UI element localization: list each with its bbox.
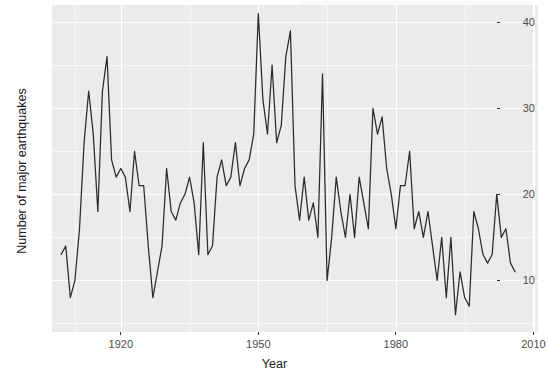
x-tick-label: 1950 <box>246 338 270 350</box>
series-polyline <box>61 14 515 315</box>
x-tick-label: 1920 <box>109 338 133 350</box>
x-tick-mark <box>258 332 259 335</box>
x-tick-mark <box>120 332 121 335</box>
chart-root: 10203040 1920195019802010 Year Number of… <box>0 0 549 384</box>
x-tick-mark <box>395 332 396 335</box>
earthquake-line-series <box>52 5 538 332</box>
x-tick-label: 2010 <box>521 338 545 350</box>
plot-panel <box>52 5 538 332</box>
x-tick-label: 1980 <box>384 338 408 350</box>
top-artifact <box>300 0 530 5</box>
y-axis-title: Number of major earthquakes <box>15 21 29 321</box>
x-tick-mark <box>533 332 534 335</box>
x-axis-title: Year <box>0 357 549 371</box>
